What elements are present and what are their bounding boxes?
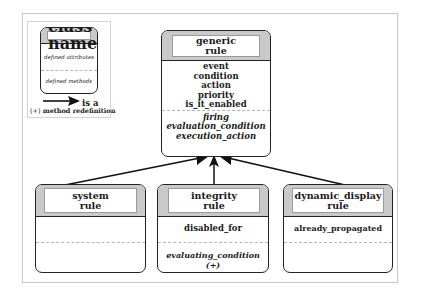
method-execution-action: execution_action xyxy=(162,132,270,141)
class-name-line1: dynamic_display xyxy=(293,191,383,201)
class-header: dynamic_display rule xyxy=(284,185,392,217)
class-header: generic rule xyxy=(162,31,270,61)
class-name-line2: rule xyxy=(45,201,136,211)
attribute-disabled-for: disabled_for xyxy=(158,223,268,233)
class-attributes: disabled_for xyxy=(158,217,268,243)
class-name: system rule xyxy=(44,188,137,213)
class-name: integrity rule xyxy=(168,188,260,213)
class-header: integrity rule xyxy=(158,185,268,217)
class-name-line2: rule xyxy=(293,201,383,211)
class-methods: firing evaluation_condition execution_ac… xyxy=(162,111,270,141)
method-evaluating-condition: evaluating_condition (+) xyxy=(158,250,268,270)
class-integrity-rule[interactable]: integrity rule disabled_for evaluating_c… xyxy=(157,184,269,273)
class-header: system rule xyxy=(36,185,145,217)
class-name-line1: system xyxy=(45,191,136,201)
class-name-line1: integrity xyxy=(169,191,259,201)
class-system-rule[interactable]: system rule xyxy=(35,184,146,273)
class-dynamic-display-rule[interactable]: dynamic_display rule already_propagated xyxy=(283,184,393,273)
class-attributes: already_propagated xyxy=(284,217,392,243)
attribute-already-propagated: already_propagated xyxy=(284,223,392,233)
class-attributes xyxy=(36,217,145,243)
attribute-is-it-enabled: is_it_enabled xyxy=(162,100,270,110)
class-name-line2: rule xyxy=(169,201,259,211)
class-name: dynamic_display rule xyxy=(292,188,384,213)
class-name: generic rule xyxy=(172,35,260,57)
class-generic-rule[interactable]: generic rule event condition action prio… xyxy=(161,30,271,157)
class-attributes: event condition action priority is_it_en… xyxy=(162,61,270,111)
class-name-line2: rule xyxy=(173,46,259,56)
class-methods: evaluating_condition (+) xyxy=(158,243,268,270)
